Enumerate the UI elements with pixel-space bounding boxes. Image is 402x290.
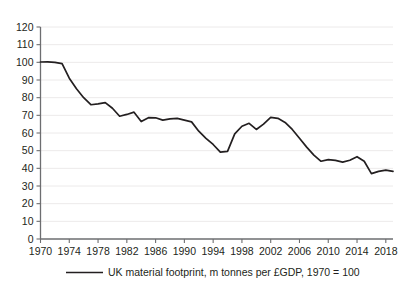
gridlines bbox=[41, 27, 394, 221]
x-tick-label: 1994 bbox=[201, 245, 225, 257]
x-tick-labels: 1970197419781982198619901994199820022006… bbox=[29, 245, 398, 257]
y-tick-label: 10 bbox=[22, 215, 34, 227]
legend: UK material footprint, m tonnes per £GDP… bbox=[66, 266, 360, 278]
y-tick-label: 60 bbox=[22, 127, 34, 139]
x-axis bbox=[41, 239, 394, 243]
y-tick-label: 30 bbox=[22, 180, 34, 192]
y-tick-label: 120 bbox=[16, 21, 34, 33]
y-tick-label: 0 bbox=[28, 233, 34, 245]
line-chart: 0102030405060708090100110120 19701974197… bbox=[0, 0, 402, 290]
x-tick-label: 2018 bbox=[374, 245, 398, 257]
y-tick-label: 100 bbox=[16, 56, 34, 68]
x-tick-label: 1982 bbox=[115, 245, 139, 257]
series-line bbox=[41, 62, 394, 174]
data-series-group bbox=[41, 62, 394, 174]
y-tick-labels: 0102030405060708090100110120 bbox=[16, 21, 34, 245]
x-tick-label: 2010 bbox=[317, 245, 341, 257]
y-tick-label: 90 bbox=[22, 74, 34, 86]
x-tick-label: 2002 bbox=[259, 245, 283, 257]
y-tick-label: 70 bbox=[22, 109, 34, 121]
y-tick-label: 40 bbox=[22, 162, 34, 174]
x-tick-label: 2014 bbox=[345, 245, 369, 257]
y-tick-label: 80 bbox=[22, 91, 34, 103]
x-tick-label: 1974 bbox=[58, 245, 82, 257]
chart-container: 0102030405060708090100110120 19701974197… bbox=[0, 0, 402, 290]
x-tick-label: 2006 bbox=[288, 245, 312, 257]
y-tick-label: 110 bbox=[17, 38, 34, 50]
y-axis bbox=[37, 27, 41, 239]
x-tick-label: 1986 bbox=[144, 245, 168, 257]
legend-label: UK material footprint, m tonnes per £GDP… bbox=[108, 266, 360, 278]
y-tick-label: 20 bbox=[22, 197, 34, 209]
x-tick-label: 1978 bbox=[86, 245, 110, 257]
x-tick-label: 1990 bbox=[173, 245, 197, 257]
y-tick-label: 50 bbox=[22, 144, 34, 156]
x-tick-label: 1998 bbox=[230, 245, 254, 257]
x-tick-label: 1970 bbox=[29, 245, 53, 257]
